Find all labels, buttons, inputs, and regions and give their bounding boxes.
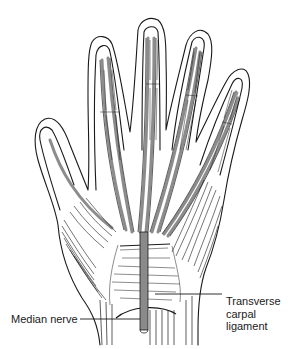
tcl-label-line1: Transverse [226, 295, 281, 308]
transverse-carpal-ligament-label: Transverse carpal ligament [226, 295, 281, 333]
median-nerve-shape [140, 232, 148, 333]
hand-anatomy-illustration: Median nerve Transverse carpal ligament [0, 0, 295, 349]
tcl-label-line3: ligament [226, 320, 281, 333]
median-nerve-label: Median nerve [11, 313, 78, 326]
thumb-inner [40, 127, 74, 210]
tcl-label-line2: carpal [226, 308, 281, 321]
